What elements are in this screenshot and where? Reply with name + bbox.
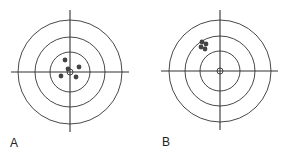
shot-dot: [77, 65, 82, 70]
panel-label-a: A: [10, 137, 18, 149]
shot-dot: [203, 47, 208, 52]
target-b: [161, 10, 278, 130]
shot-dot: [204, 42, 209, 47]
target-a: [11, 10, 129, 132]
panel-label-b: B: [162, 136, 170, 148]
shot-dot: [66, 67, 71, 72]
shot-dot: [74, 75, 79, 80]
shot-dot: [59, 74, 64, 79]
shot-dot: [63, 58, 68, 63]
targets-diagram: [0, 0, 283, 156]
